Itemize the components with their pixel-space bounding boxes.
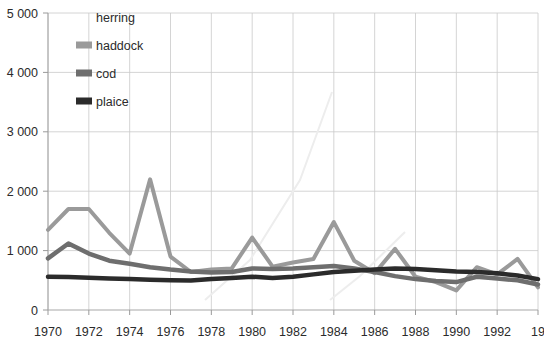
y-axis-tick-label: 0 bbox=[31, 304, 38, 318]
chart-svg: 01 0002 0003 0004 0005 000 1970197219741… bbox=[0, 0, 544, 347]
y-axis-tick-label: 4 000 bbox=[7, 66, 38, 80]
chart-legend: herringhaddockcodplaice bbox=[76, 11, 144, 109]
x-axis-tick-label: 1978 bbox=[197, 325, 225, 339]
x-axis-tick-label: 1988 bbox=[402, 325, 430, 339]
legend-label-herring: herring bbox=[96, 11, 135, 25]
x-axis-tick-labels: 1970197219741976197819801982198419861988… bbox=[34, 325, 544, 339]
legend-label-cod: cod bbox=[96, 67, 116, 81]
y-axis-tick-label: 3 000 bbox=[7, 125, 38, 139]
x-axis-tick-label: 1992 bbox=[483, 325, 511, 339]
x-axis-tick-label: 1986 bbox=[361, 325, 389, 339]
x-axis-tick-label: 1970 bbox=[34, 325, 62, 339]
line-chart: 01 0002 0003 0004 0005 000 1970197219741… bbox=[0, 0, 544, 347]
false bbox=[76, 98, 92, 105]
y-axis-tick-label: 1 000 bbox=[7, 244, 38, 258]
x-axis-tick-label: 1984 bbox=[320, 325, 348, 339]
gridlines bbox=[48, 13, 538, 310]
false bbox=[76, 70, 92, 77]
y-axis-tick-label: 5 000 bbox=[7, 7, 38, 21]
x-axis-tick-label: 1972 bbox=[75, 325, 103, 339]
x-axis-tick-label: 1974 bbox=[116, 325, 144, 339]
x-axis-tick-label: 19 bbox=[531, 325, 544, 339]
x-axis-tick-label: 1980 bbox=[238, 325, 266, 339]
x-axis-tick-label: 1982 bbox=[279, 325, 307, 339]
y-axis-tick-labels: 01 0002 0003 0004 0005 000 bbox=[7, 7, 38, 318]
legend-label-plaice: plaice bbox=[96, 95, 129, 109]
false bbox=[76, 42, 92, 49]
legend-label-haddock: haddock bbox=[96, 39, 144, 53]
y-axis-tick-label: 2 000 bbox=[7, 185, 38, 199]
x-axis-tick-label: 1990 bbox=[442, 325, 470, 339]
x-axis-tick-label: 1976 bbox=[157, 325, 185, 339]
